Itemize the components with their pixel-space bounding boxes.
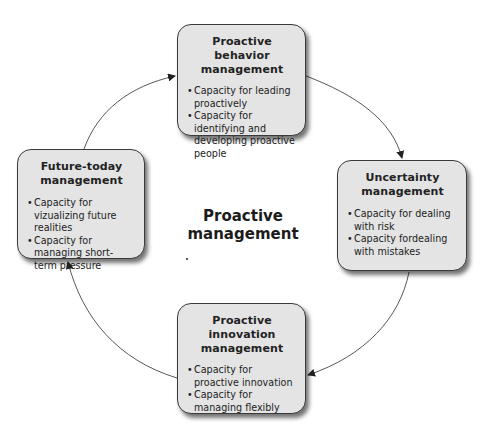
bullet-item: Capacity for identifying and developing … xyxy=(187,110,297,160)
bullet-item: Capacity for leading proactively xyxy=(187,85,297,110)
box-proactive-innovation-management: Proactive innovation management Capacity… xyxy=(177,303,306,414)
box-title: Proactive behavior management xyxy=(187,35,297,77)
bullet-item: Capacity fordealing with mistakes xyxy=(347,233,458,258)
bullet-list: Capacity for vizualizing future realitie… xyxy=(27,197,136,272)
box-title: Proactive innovation management xyxy=(187,314,297,356)
bullet-item: Capacity for proactive innovation xyxy=(187,364,297,389)
box-proactive-behavior-management: Proactive behavior management Capacity f… xyxy=(177,24,306,136)
stray-dot xyxy=(186,258,188,260)
arrow-left-to-top xyxy=(84,76,175,149)
arrow-top-to-right xyxy=(306,76,402,158)
center-title: Proactive management xyxy=(178,207,308,243)
arrow-bottom-to-left xyxy=(68,262,177,378)
bullet-list: Capacity for proactive innovation Capaci… xyxy=(187,364,297,414)
bullet-list: Capacity for dealing with risk Capacity … xyxy=(347,208,458,258)
box-title: Uncertainty management xyxy=(347,171,458,199)
arrow-right-to-bottom xyxy=(308,272,409,375)
box-title: Future-today management xyxy=(27,160,136,188)
box-future-today-management: Future-today management Capacity for viz… xyxy=(17,149,145,259)
bullet-item: Capacity for dealing with risk xyxy=(347,208,458,233)
box-uncertainty-management: Uncertainty management Capacity for deal… xyxy=(337,160,467,271)
bullet-item: Capacity for vizualizing future realitie… xyxy=(27,197,136,235)
bullet-item: Capacity for managing flexibly xyxy=(187,389,297,414)
bullet-list: Capacity for leading proactively Capacit… xyxy=(187,85,297,160)
bullet-item: Capacity for managing short-term pressur… xyxy=(27,235,136,273)
